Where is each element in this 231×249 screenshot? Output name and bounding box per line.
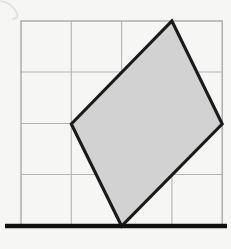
geometry-figure [0, 0, 231, 249]
figure-container [0, 0, 231, 249]
